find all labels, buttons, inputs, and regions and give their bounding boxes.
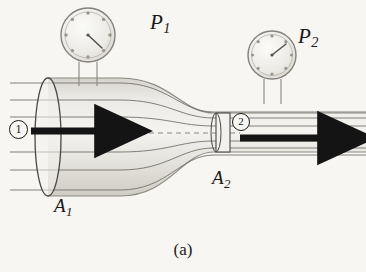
- gauge-2-hub: [270, 53, 273, 56]
- pressure-gauge-1: [61, 8, 115, 86]
- label-area-2: A2: [212, 168, 231, 191]
- gauge-1-hub: [86, 33, 89, 36]
- figure-caption: (a): [0, 240, 366, 260]
- venturi-tube-figure: P1 P2 A1 A2 v1 v2 1 2 (a): [0, 0, 366, 272]
- label-velocity-2: v2: [330, 128, 346, 150]
- label-pressure-1: P1: [150, 12, 170, 35]
- inlet-cross-section: [35, 78, 61, 196]
- label-pressure-2: P2: [298, 26, 318, 49]
- label-point-1: 1: [9, 120, 28, 139]
- label-velocity-1: v1: [109, 121, 125, 143]
- inlet-ellipse: [35, 78, 61, 196]
- label-point-2: 2: [232, 113, 250, 131]
- throat-section-box: [216, 113, 230, 152]
- pressure-gauge-2: [248, 31, 296, 104]
- label-area-1: A1: [54, 196, 73, 219]
